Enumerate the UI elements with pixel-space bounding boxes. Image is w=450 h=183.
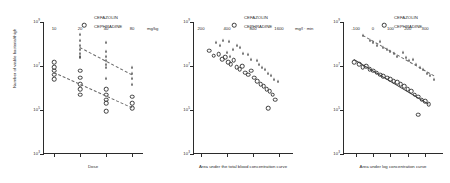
- data-point: [78, 92, 83, 97]
- x-axis-spine: [193, 153, 293, 154]
- legend-item-cefazolin: CEFAZOLIN: [378, 13, 448, 22]
- y-tick: [340, 66, 344, 67]
- data-point: [79, 32, 81, 35]
- data-point: [105, 66, 107, 69]
- y-tick: [340, 22, 344, 23]
- data-point: [273, 78, 275, 81]
- y-tick-label: 103: [183, 152, 190, 157]
- x-axis-title: Area under log concentration curve: [360, 165, 427, 169]
- x-tick-label: 20: [78, 27, 83, 31]
- data-point: [211, 53, 216, 58]
- legend-label-cefazolin: CEFAZOLIN: [394, 13, 418, 22]
- data-point: [379, 40, 381, 43]
- x-tick: [425, 153, 426, 157]
- y-tick: [190, 110, 194, 111]
- x-tick-label: 200: [404, 27, 411, 31]
- data-point: [130, 94, 135, 99]
- x-tick-label: 1600: [274, 27, 283, 31]
- data-point: [433, 78, 435, 81]
- x-tick-label: 200: [198, 27, 205, 31]
- data-point: [239, 46, 241, 49]
- x-axis-title: Dose: [88, 165, 98, 169]
- data-point: [52, 77, 57, 82]
- x-tick-label: 80: [130, 27, 135, 31]
- data-point: [256, 59, 258, 62]
- panel-log-auc: CEFAZOLIN CEPHRADINE 109107105103 -10001…: [300, 0, 450, 183]
- x-tick: [373, 153, 374, 157]
- x-tick-label: 40: [104, 27, 109, 31]
- data-point: [105, 76, 107, 79]
- panel-dose: Number of viable bacteria/thigh CEFAZOLI…: [0, 0, 150, 183]
- plot-frame-3: 109107105103 -1000100200300 Area under l…: [343, 22, 443, 154]
- legend-label-cefazolin: CEFAZOLIN: [244, 13, 268, 22]
- data-point: [78, 87, 83, 92]
- y-tick: [190, 154, 194, 155]
- y-tick-label: 107: [33, 64, 40, 69]
- y-tick: [40, 66, 44, 67]
- x-tick-label: 100: [387, 27, 394, 31]
- data-point: [416, 113, 421, 118]
- data-point: [79, 39, 81, 42]
- x-tick: [253, 153, 254, 157]
- data-point: [266, 106, 271, 111]
- y-axis-spine: [43, 22, 44, 154]
- data-point: [270, 73, 272, 76]
- data-point: [131, 83, 133, 86]
- x-tick-label: 10: [52, 27, 57, 31]
- data-point: [273, 97, 278, 102]
- data-point: [104, 109, 109, 114]
- x-tick-label: 300: [422, 27, 429, 31]
- y-tick-label: 105: [33, 108, 40, 113]
- y-tick-label: 105: [183, 108, 190, 113]
- data-point: [226, 50, 228, 53]
- data-point: [236, 44, 238, 47]
- x-axis-spine: [343, 153, 443, 154]
- panel-total-auc: CEFAZOLIN CEPHRADINE 109107105103 200400…: [150, 0, 300, 183]
- y-tick: [340, 154, 344, 155]
- data-point: [277, 80, 279, 83]
- data-point: [79, 56, 81, 59]
- data-point: [105, 54, 107, 57]
- plot-frame-1: 109107105103 10204080 Dose mg/kg: [43, 22, 143, 154]
- data-point: [240, 64, 245, 69]
- data-point: [249, 69, 254, 74]
- data-point: [267, 71, 269, 74]
- x-tick: [54, 153, 55, 157]
- data-point: [219, 44, 221, 47]
- y-tick-label: 103: [33, 152, 40, 157]
- y-tick: [40, 154, 44, 155]
- data-point: [104, 87, 109, 92]
- y-axis-spine: [193, 22, 194, 154]
- y-tick-label: 109: [183, 20, 190, 25]
- y-tick-label: 103: [333, 152, 340, 157]
- data-point: [250, 58, 252, 61]
- data-point: [215, 41, 217, 44]
- x-tick-label: 0: [372, 27, 374, 31]
- plot-frame-2: 109107105103 2004008001600 Area under th…: [193, 22, 293, 154]
- x-axis-spine: [43, 153, 143, 154]
- data-point: [216, 52, 221, 57]
- x-axis-title: Area under the total blood concentration…: [199, 165, 287, 169]
- data-point: [104, 101, 109, 106]
- data-point: [207, 48, 212, 53]
- data-point: [270, 92, 275, 97]
- y-tick: [190, 66, 194, 67]
- legend-item-cefazolin: CEFAZOLIN: [228, 13, 298, 22]
- x-tick: [408, 153, 409, 157]
- data-point: [242, 51, 244, 54]
- data-point: [105, 49, 107, 52]
- x-tick-label: 800: [250, 27, 257, 31]
- data-point: [78, 75, 83, 80]
- y-tick-label: 107: [333, 64, 340, 69]
- data-point: [78, 69, 83, 74]
- y-axis-spine: [343, 22, 344, 154]
- data-point: [228, 40, 230, 43]
- y-tick-label: 109: [333, 20, 340, 25]
- data-point: [402, 50, 404, 53]
- x-tick: [279, 153, 280, 157]
- y-axis-title: Number of viable bacteria/thigh: [13, 29, 17, 88]
- regression-line: [54, 72, 132, 108]
- data-point: [232, 47, 234, 50]
- x-tick-label: 400: [224, 27, 231, 31]
- figure-container: Number of viable bacteria/thigh CEFAZOLI…: [0, 0, 450, 183]
